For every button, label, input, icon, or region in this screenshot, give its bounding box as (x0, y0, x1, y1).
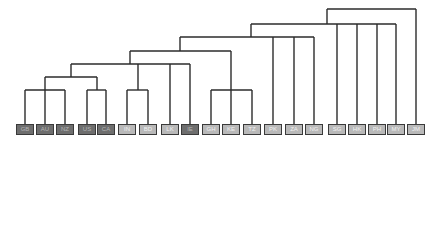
leaf-ng: NG (305, 124, 323, 135)
leaf-pk: PK (264, 124, 282, 135)
leaf-in: IN (118, 124, 136, 135)
leaf-bd: BD (139, 124, 157, 135)
leaf-ph: PH (368, 124, 386, 135)
leaf-sg: SG (328, 124, 346, 135)
leaf-gh: GH (202, 124, 220, 135)
leaf-au: AU (36, 124, 54, 135)
leaf-ca: CA (97, 124, 115, 135)
leaf-tz: TZ (243, 124, 261, 135)
leaf-gb: GB (16, 124, 34, 135)
leaf-ke: KE (222, 124, 240, 135)
leaf-us: US (78, 124, 96, 135)
leaf-za: ZA (285, 124, 303, 135)
leaf-my: MY (387, 124, 405, 135)
leaf-hk: HK (348, 124, 366, 135)
leaf-ie: IE (181, 124, 199, 135)
leaf-lk: LK (161, 124, 179, 135)
leaf-nz: NZ (56, 124, 74, 135)
leaf-jm: JM (407, 124, 425, 135)
